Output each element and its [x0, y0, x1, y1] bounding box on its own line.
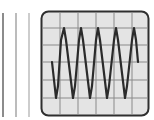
side-bars: [3, 13, 29, 117]
oscilloscope-illustration: [0, 0, 154, 120]
